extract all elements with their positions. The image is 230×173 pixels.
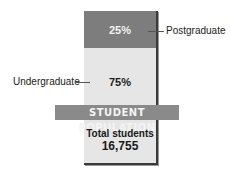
postgraduate-leader-line bbox=[148, 31, 164, 32]
postgraduate-percent: 25% bbox=[84, 24, 156, 36]
undergraduate-percent: 75% bbox=[84, 76, 156, 88]
postgraduate-label: Postgraduate bbox=[166, 25, 226, 36]
total-students-label: Total students bbox=[84, 128, 156, 139]
chart-title-banner: STUDENT POPULATION bbox=[55, 105, 179, 120]
total-students-value: 16,755 bbox=[84, 139, 156, 153]
undergraduate-label: Undergraduate bbox=[13, 76, 80, 87]
segment-postgraduate: 25% bbox=[84, 11, 156, 48]
